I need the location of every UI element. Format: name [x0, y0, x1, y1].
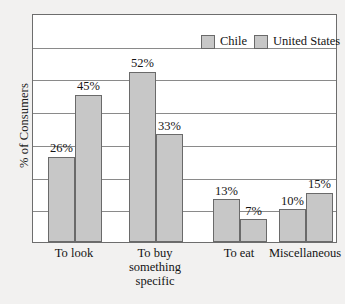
legend-swatch-united-states: [254, 35, 268, 49]
bar[interactable]: [156, 134, 183, 242]
bar-value-label: 13%: [198, 185, 255, 198]
plot-area: 26%45%52%33%13%7%10%15% Chile United Sta…: [32, 14, 337, 243]
bar[interactable]: [129, 72, 156, 242]
bar-chart-figure: % of Consumers 26%45%52%33%13%7%10%15% C…: [0, 0, 345, 304]
bar-group: 10%15%: [279, 15, 333, 242]
legend-label-chile: Chile: [220, 34, 247, 49]
bar[interactable]: [48, 157, 75, 242]
bar-value-label: 15%: [291, 178, 345, 191]
bar-value-label: 45%: [60, 80, 117, 93]
chart-legend: Chile United States: [201, 34, 340, 49]
legend-entry-united-states[interactable]: United States: [254, 34, 340, 49]
bar-group: 52%33%: [129, 15, 183, 242]
bar-group: 26%45%: [48, 15, 102, 242]
bar[interactable]: [279, 209, 306, 242]
bar-value-label: 33%: [141, 120, 198, 133]
bar[interactable]: [306, 193, 333, 242]
bar[interactable]: [240, 219, 267, 242]
legend-swatch-chile: [201, 35, 215, 49]
legend-label-united-states: United States: [273, 34, 340, 49]
y-axis-title: % of Consumers: [17, 56, 32, 196]
legend-entry-chile[interactable]: Chile: [201, 34, 247, 49]
bar-value-label: 52%: [114, 57, 171, 70]
bar-group: 13%7%: [213, 15, 267, 242]
x-tick-label: Miscellaneous: [250, 246, 345, 260]
bars-layer: 26%45%52%33%13%7%10%15%: [33, 15, 336, 242]
bar[interactable]: [75, 95, 102, 242]
x-axis-labels: To lookTo buysomethingspecificTo eatMisc…: [32, 246, 337, 304]
